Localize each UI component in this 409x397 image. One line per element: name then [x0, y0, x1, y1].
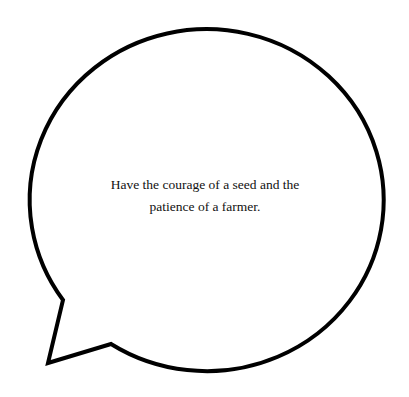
quote-text: Have the courage of a seed and the patie… [90, 174, 320, 218]
